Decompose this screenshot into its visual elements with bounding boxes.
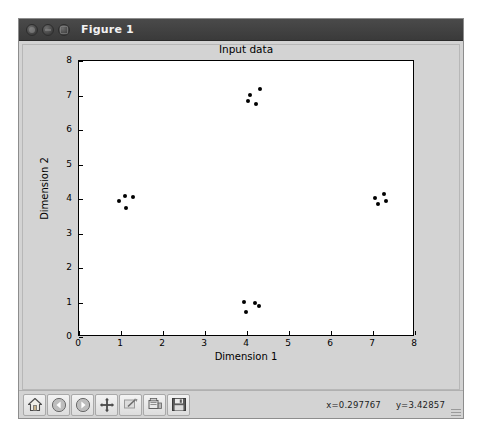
x-tick-label: 6 [327,338,333,348]
scatter-point [246,99,250,103]
y-tick-mark [79,268,83,269]
scatter-point [376,202,380,206]
scatter-point [257,304,261,308]
x-tick-label: 7 [369,338,375,348]
home-icon[interactable] [23,394,46,416]
x-axis-label: Dimension 1 [78,351,414,362]
scatter-point [382,192,386,196]
scatter-point [117,199,121,203]
x-tick-mark [331,331,332,335]
x-tick-mark [247,331,248,335]
scatter-point [258,87,262,91]
close-icon[interactable] [26,24,38,36]
scatter-point [124,206,128,210]
window-title: Figure 1 [81,23,134,36]
x-tick-label: 0 [75,338,81,348]
zoom-rect-icon[interactable] [119,394,142,416]
maximize-icon[interactable] [58,24,70,36]
x-tick-label: 8 [411,338,417,348]
x-tick-label: 3 [201,338,207,348]
window-titlebar[interactable]: Figure 1 [19,19,463,41]
scatter-point [123,194,127,198]
y-tick-mark [79,199,83,200]
scatter-point [242,300,246,304]
resize-grip[interactable] [451,406,461,416]
scatter-point [384,199,388,203]
figure-canvas[interactable]: Input data Dimension 2 Dimension 1 01234… [19,41,463,390]
chart-title: Input data [78,43,414,55]
pan-move-icon[interactable] [95,394,118,416]
x-tick-mark [373,331,374,335]
x-tick-label: 4 [243,338,249,348]
y-tick-label: 4 [50,193,72,203]
y-tick-label: 8 [50,55,72,65]
navigation-toolbar: x=0.297767 y=3.42857 [19,390,463,418]
screenshot-root: Figure 1 Input data Dimension 2 Dimensio… [0,0,482,428]
x-tick-label: 2 [159,338,165,348]
figure-background: Input data Dimension 2 Dimension 1 01234… [22,44,460,390]
y-axis-label: Dimension 2 [39,89,50,289]
figure-window: Figure 1 Input data Dimension 2 Dimensio… [18,18,464,419]
plot-axes-area[interactable] [78,60,414,336]
save-disk-icon[interactable] [167,394,190,416]
y-tick-mark [79,61,83,62]
x-tick-mark [205,331,206,335]
scatter-point [248,93,252,97]
y-tick-mark [79,96,83,97]
y-tick-label: 1 [50,297,72,307]
y-tick-mark [79,303,83,304]
y-tick-mark [79,165,83,166]
x-tick-mark [415,331,416,335]
x-tick-label: 5 [285,338,291,348]
x-tick-label: 1 [117,338,123,348]
y-tick-label: 6 [50,124,72,134]
scatter-point [253,301,257,305]
x-tick-mark [121,331,122,335]
cursor-y-value: y=3.42857 [396,400,445,410]
minimize-icon[interactable] [42,24,54,36]
y-tick-mark [79,130,83,131]
x-tick-mark [79,331,80,335]
scatter-point [244,310,248,314]
x-tick-mark [163,331,164,335]
y-tick-label: 0 [50,331,72,341]
cursor-x-value: x=0.297767 [326,400,381,410]
scatter-point [254,102,258,106]
y-tick-label: 7 [50,90,72,100]
y-tick-label: 2 [50,262,72,272]
x-tick-mark [289,331,290,335]
scatter-point [131,195,135,199]
back-arrow-icon[interactable] [47,394,70,416]
subplot-config-icon[interactable] [143,394,166,416]
y-tick-mark [79,337,83,338]
window-controls [26,24,70,36]
scatter-point [373,196,377,200]
forward-arrow-icon[interactable] [71,394,94,416]
y-tick-mark [79,234,83,235]
cursor-coordinates: x=0.297767 y=3.42857 [326,400,459,410]
y-tick-label: 3 [50,228,72,238]
y-tick-label: 5 [50,159,72,169]
